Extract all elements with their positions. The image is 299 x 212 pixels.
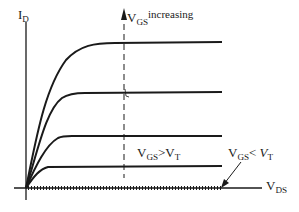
vgs-increasing-sub: GS (136, 17, 148, 27)
vgs-below-rhs-main: V (260, 145, 268, 160)
vgs-increasing-suffix: increasing (148, 8, 193, 20)
y-axis-label: ID (18, 8, 29, 24)
x-axis-label-main: V (266, 178, 275, 193)
vgs-below-sub: GS (237, 152, 249, 162)
y-axis-label-sub: D (22, 14, 29, 24)
vgs-below-rhs-sub: T (268, 152, 274, 162)
arrow-pointer-icon (221, 179, 229, 188)
vgs-increasing-main: V (127, 10, 136, 25)
vgs-below-vt-arrow-line (224, 162, 241, 184)
curve-3 (26, 136, 222, 188)
vgs-below-op: < (249, 145, 256, 160)
vgs-increasing-label: VGSincreasing (127, 9, 193, 27)
diagram-canvas (0, 0, 299, 212)
vgs-above-sub: GS (146, 152, 158, 162)
mosfet-characteristic-diagram: ID VDS VGSincreasing VGS>VT VGS< VT (0, 0, 299, 212)
vgs-above-vt-label: VGS>VT (137, 146, 180, 162)
vgs-below-vt-label: VGS< VT (228, 146, 273, 162)
vgs-below-main: V (228, 145, 237, 160)
vgs-above-main: V (137, 145, 146, 160)
vgs-above-rhs-main: V (165, 145, 174, 160)
x-axis-label-sub: DS (275, 185, 287, 195)
x-axis-label: VDS (266, 179, 287, 195)
vgs-above-rhs-sub: T (175, 152, 181, 162)
